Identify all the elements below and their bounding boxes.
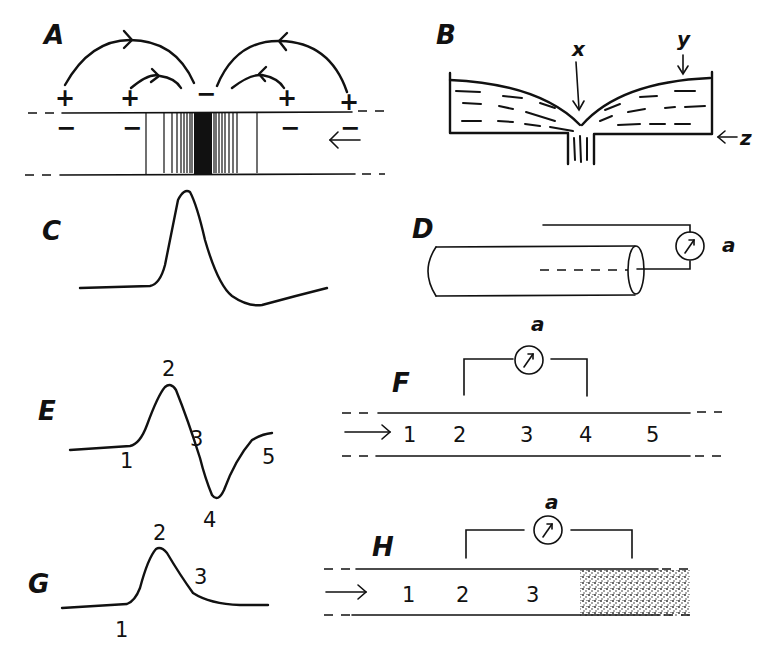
panel-d-label: D bbox=[412, 214, 434, 244]
point-4: 4 bbox=[203, 508, 216, 532]
point-1: 1 bbox=[120, 449, 133, 473]
point-2: 2 bbox=[153, 521, 166, 545]
marker-y: y bbox=[677, 27, 691, 51]
panel-h-label: H bbox=[372, 532, 394, 562]
charge-minus: − bbox=[280, 114, 300, 142]
charge-minus: − bbox=[340, 114, 360, 142]
meter-label: a bbox=[722, 233, 736, 257]
galvanometer-icon bbox=[534, 516, 562, 544]
position-1: 1 bbox=[403, 423, 416, 447]
charge-minus: − bbox=[122, 114, 142, 142]
panel-f-label: F bbox=[392, 368, 410, 398]
position-1: 1 bbox=[402, 583, 415, 607]
position-2: 2 bbox=[453, 423, 466, 447]
panel-e: E 1 2 3 4 5 bbox=[38, 357, 275, 532]
panel-c-label: C bbox=[42, 216, 61, 246]
nerve-conduction-figure: A + + − + + − − − − bbox=[0, 0, 768, 659]
position-3: 3 bbox=[520, 423, 533, 447]
point-2: 2 bbox=[162, 357, 175, 381]
position-3: 3 bbox=[526, 583, 539, 607]
point-5: 5 bbox=[262, 445, 275, 469]
panel-f: F a 1 2 3 4 5 bbox=[342, 312, 722, 456]
panel-g-label: G bbox=[28, 569, 49, 599]
depolarization-zone bbox=[146, 113, 257, 174]
charge-plus: + bbox=[55, 84, 75, 112]
panel-c: C bbox=[42, 191, 327, 305]
meter-label: a bbox=[531, 312, 545, 336]
meter-label: a bbox=[545, 490, 559, 514]
panel-a: A + + − + + − − − − bbox=[25, 20, 385, 175]
action-potential-curve bbox=[80, 191, 327, 305]
marker-x: x bbox=[571, 37, 586, 61]
nerve-cylinder bbox=[436, 246, 635, 296]
galvanometer-icon bbox=[515, 346, 543, 374]
panel-a-label: A bbox=[42, 20, 64, 50]
propagation-arrow-icon bbox=[326, 585, 366, 599]
biphasic-potential-curve bbox=[70, 385, 272, 498]
point-1: 1 bbox=[115, 618, 128, 642]
panel-d: D a bbox=[412, 214, 736, 296]
marker-z: z bbox=[739, 126, 752, 150]
position-4: 4 bbox=[579, 423, 592, 447]
position-5: 5 bbox=[646, 423, 659, 447]
charge-plus: + bbox=[277, 84, 297, 112]
position-2: 2 bbox=[456, 583, 469, 607]
panel-g: G 1 2 3 bbox=[28, 521, 268, 642]
panel-b: B bbox=[436, 20, 752, 164]
galvanometer-icon bbox=[676, 232, 704, 260]
monophasic-potential-curve bbox=[62, 548, 268, 608]
inactivated-region bbox=[580, 570, 690, 616]
propagation-arrow-icon bbox=[345, 425, 390, 439]
charge-minus: − bbox=[196, 80, 216, 108]
charge-plus: + bbox=[120, 84, 140, 112]
point-3: 3 bbox=[194, 565, 207, 589]
current-loop-outer-left bbox=[65, 40, 194, 85]
panel-e-label: E bbox=[38, 396, 56, 426]
panel-b-label: B bbox=[436, 20, 456, 50]
panel-h: H a 1 2 3 bbox=[324, 490, 690, 616]
charge-minus: − bbox=[56, 114, 76, 142]
point-3: 3 bbox=[190, 427, 203, 451]
flow-lines bbox=[456, 91, 705, 162]
